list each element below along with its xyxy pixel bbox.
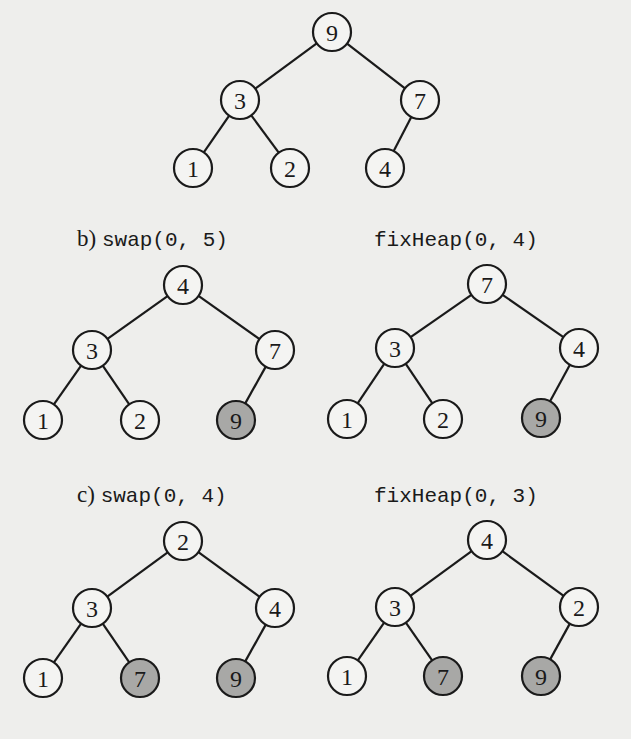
heap-node: 2 xyxy=(164,522,202,560)
heap-node: 3 xyxy=(73,331,111,369)
caption-prefix: b) xyxy=(77,226,102,251)
tree-edge xyxy=(204,116,229,153)
caption-prefix: c) xyxy=(77,482,101,507)
caption-b-swap: b) swap(0, 5) xyxy=(77,226,228,252)
caption-c-fixheap: fixHeap(0, 3) xyxy=(374,482,538,508)
node-value: 4 xyxy=(177,273,189,299)
heap-node: 4 xyxy=(366,149,404,187)
node-value: 4 xyxy=(379,156,391,182)
heap-node: 1 xyxy=(24,401,62,439)
heap-node: 7 xyxy=(468,265,506,303)
tree-edge xyxy=(410,551,471,596)
heap-node: 2 xyxy=(560,588,598,626)
node-value: 1 xyxy=(187,156,199,182)
tree-edge xyxy=(255,43,316,88)
tree-edge xyxy=(103,624,130,663)
tree-panel-c-fixheap: 432179 xyxy=(328,521,598,695)
node-value: 3 xyxy=(86,338,98,364)
heap-node: 1 xyxy=(328,400,366,438)
tree-edge xyxy=(198,552,259,597)
node-value: 7 xyxy=(269,338,281,364)
heap-node: 2 xyxy=(271,149,309,187)
node-value: 7 xyxy=(481,272,493,298)
tree-edge xyxy=(411,295,472,337)
tree-edge xyxy=(199,296,260,339)
sorted-node: 7 xyxy=(424,657,462,695)
tree-edge xyxy=(245,625,266,662)
heap-node: 2 xyxy=(121,401,159,439)
heap-node: 3 xyxy=(376,588,414,626)
node-value: 2 xyxy=(573,595,585,621)
heap-node: 1 xyxy=(174,149,212,187)
node-value: 4 xyxy=(269,596,281,622)
tree-edge xyxy=(358,364,385,404)
node-value: 1 xyxy=(341,407,353,433)
node-value: 3 xyxy=(234,88,246,114)
node-value: 2 xyxy=(134,408,146,434)
node-value: 9 xyxy=(535,664,547,690)
tree-edge xyxy=(550,624,570,660)
tree-edge xyxy=(54,366,81,405)
sorted-node: 7 xyxy=(121,659,159,697)
heap-node: 4 xyxy=(256,589,294,627)
sorted-node: 9 xyxy=(522,657,560,695)
node-value: 9 xyxy=(230,666,242,692)
caption-code: fixHeap(0, 4) xyxy=(374,229,538,252)
node-value: 4 xyxy=(573,336,585,362)
node-value: 9 xyxy=(535,406,547,432)
tree-edge xyxy=(406,364,433,404)
node-value: 3 xyxy=(389,336,401,362)
node-value: 7 xyxy=(414,88,426,114)
heap-node: 3 xyxy=(376,329,414,367)
tree-edge xyxy=(107,296,167,339)
tree-edge xyxy=(251,115,278,152)
node-value: 9 xyxy=(230,408,242,434)
tree-edge xyxy=(550,365,570,402)
node-value: 2 xyxy=(177,529,189,555)
heap-node: 1 xyxy=(328,657,366,695)
tree-edge xyxy=(503,295,564,337)
node-value: 2 xyxy=(437,407,449,433)
node-value: 3 xyxy=(86,596,98,622)
heap-node: 3 xyxy=(73,589,111,627)
heap-node: 7 xyxy=(401,81,439,119)
heap-node: 1 xyxy=(24,659,62,697)
caption-b-fixheap: fixHeap(0, 4) xyxy=(374,226,538,252)
heap-node: 9 xyxy=(313,13,351,51)
heap-node: 7 xyxy=(256,331,294,369)
heap-node: 4 xyxy=(164,266,202,304)
node-value: 9 xyxy=(326,20,338,46)
node-value: 7 xyxy=(437,664,449,690)
heap-node: 2 xyxy=(424,400,462,438)
sorted-node: 9 xyxy=(217,659,255,697)
tree-edge xyxy=(103,366,130,405)
sorted-node: 9 xyxy=(217,401,255,439)
node-value: 3 xyxy=(389,595,401,621)
tree-panel-a: 937124 xyxy=(174,13,439,187)
node-value: 1 xyxy=(341,664,353,690)
heap-node: 4 xyxy=(560,329,598,367)
caption-c-swap: c) swap(0, 4) xyxy=(77,482,227,508)
tree-edge xyxy=(245,367,266,404)
tree-edge xyxy=(502,551,563,596)
caption-code: swap(0, 5) xyxy=(102,229,228,252)
heap-node: 3 xyxy=(221,81,259,119)
caption-code: fixHeap(0, 3) xyxy=(374,485,538,508)
node-value: 4 xyxy=(481,528,493,554)
node-value: 1 xyxy=(37,408,49,434)
tree-edge xyxy=(358,623,384,661)
caption-code: swap(0, 4) xyxy=(101,485,227,508)
tree-edge xyxy=(107,552,167,596)
tree-panel-c-swap: 234179 xyxy=(24,522,294,697)
heap-node: 4 xyxy=(468,521,506,559)
node-value: 1 xyxy=(37,666,49,692)
node-value: 7 xyxy=(134,666,146,692)
node-value: 2 xyxy=(284,156,296,182)
sorted-node: 9 xyxy=(522,399,560,437)
tree-canvas: 937124437129734129234179432179 xyxy=(0,0,631,739)
tree-edge xyxy=(394,117,412,151)
tree-edge xyxy=(406,623,432,661)
tree-panel-b-swap: 437129 xyxy=(24,266,294,439)
tree-edge xyxy=(347,44,405,89)
tree-panel-b-fixheap: 734129 xyxy=(328,265,598,438)
